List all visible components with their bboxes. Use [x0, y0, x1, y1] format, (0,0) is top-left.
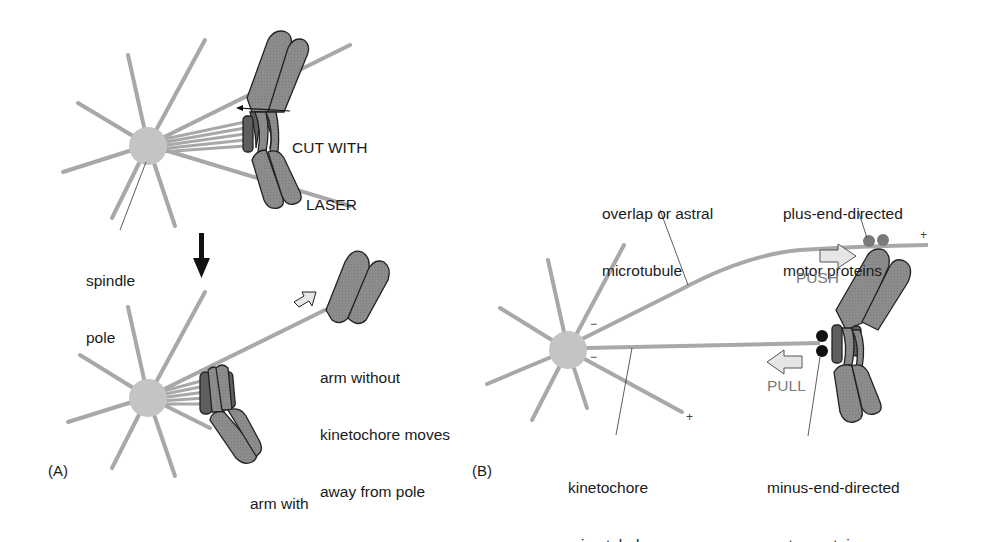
panel-a-top-kinetochore-fibers — [160, 122, 245, 152]
kinetochore-mt-line2: microtubule — [568, 535, 648, 542]
chromosome-arm-without-kinetochore — [326, 251, 389, 323]
minus-end-motor-label: minus-end-directed motor proteins — [767, 440, 900, 542]
kinetochore-microtubule — [586, 343, 820, 348]
spindle-pole — [129, 127, 167, 165]
away-arrow-icon — [294, 292, 316, 307]
spindle-pole-bottom — [129, 379, 167, 417]
pull-arrow-icon — [767, 350, 802, 374]
panel-a-label: (A) — [48, 462, 68, 479]
minus-motor-line2: motor proteins — [767, 535, 900, 542]
minus-motor-line1: minus-end-directed — [767, 478, 900, 497]
push-label: PUSH — [796, 268, 839, 287]
kinetochore-microtubule-label: kinetochore microtubule — [568, 440, 648, 542]
arm-without-line1: arm without — [320, 368, 450, 387]
minus-sign-overlap: − — [590, 317, 597, 331]
arm-without-line2: kinetochore moves — [320, 425, 450, 444]
overlap-line2: microtubule — [602, 261, 713, 280]
cut-label-line2: LASER — [292, 195, 367, 214]
arm-with-kinetochore-label: arm with kinetochore moves toward pole — [250, 456, 380, 542]
plus-sign-overlap: + — [920, 228, 927, 242]
overlap-astral-label: overlap or astral microtubule — [602, 166, 713, 299]
down-arrow-icon — [193, 233, 210, 278]
spindle-label-line2: pole — [86, 328, 135, 347]
arm-with-line1: arm with — [250, 494, 380, 513]
cut-label-line1: CUT WITH — [292, 138, 367, 157]
kinetochore-mt-line1: kinetochore — [568, 478, 648, 497]
spindle-pole-b — [549, 331, 587, 369]
spindle-pole-label: spindle pole — [86, 233, 135, 366]
plus-motor-line1: plus-end-directed — [783, 204, 903, 223]
minus-sign-kinetochore: − — [590, 350, 597, 364]
chromosome-arm-with-kinetochore — [200, 365, 261, 463]
pull-label: PULL — [767, 376, 806, 395]
spindle-label-line1: spindle — [86, 271, 135, 290]
cut-with-laser-label: CUT WITH LASER — [292, 100, 367, 233]
plus-sign-astral: + — [686, 410, 693, 424]
panel-b-label: (B) — [472, 462, 492, 479]
overlap-line1: overlap or astral — [602, 204, 713, 223]
